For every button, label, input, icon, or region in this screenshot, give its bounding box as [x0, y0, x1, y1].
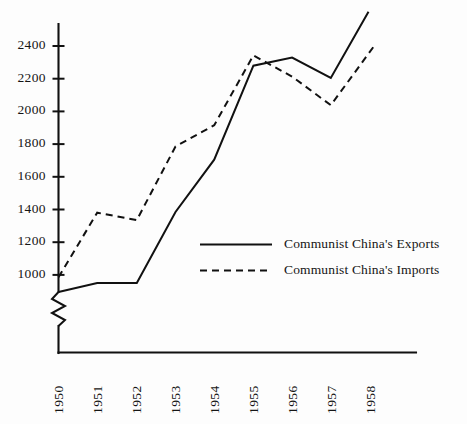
- x-tick-label: 1958: [363, 385, 378, 414]
- x-tick-label: 1956: [285, 385, 300, 414]
- y-tick-label: 2400: [17, 37, 46, 52]
- x-tick-label: 1952: [129, 385, 144, 414]
- chart-legend: Communist China's Exports Communist Chin…: [200, 236, 439, 277]
- x-tick-label: 1950: [51, 385, 66, 414]
- x-tick-label: 1955: [246, 385, 261, 414]
- y-tick-label: 2200: [17, 70, 46, 85]
- y-tick-label: 2000: [17, 102, 46, 117]
- axis-break-icon: [52, 292, 65, 326]
- y-tick-label: 1400: [17, 201, 46, 216]
- line-chart: 2400 2200 2000 1800 1600 1400 1200 1000 …: [0, 0, 467, 424]
- legend-label-exports: Communist China's Exports: [284, 236, 439, 251]
- y-tick-label: 1800: [17, 135, 46, 150]
- y-tick-label: 1600: [17, 168, 46, 183]
- x-tick-label: 1953: [168, 385, 183, 414]
- chart-page: 2400 2200 2000 1800 1600 1400 1200 1000 …: [0, 0, 467, 424]
- x-tick-labels: 1950 1951 1952 1953 1954 1955 1956 1957 …: [51, 385, 378, 414]
- x-tick-label: 1957: [324, 385, 339, 414]
- y-tick-labels: 2400 2200 2000 1800 1600 1400 1200 1000: [17, 37, 46, 281]
- x-tick-label: 1954: [207, 385, 222, 414]
- y-tick-label: 1200: [17, 233, 46, 248]
- x-tick-label: 1951: [90, 385, 105, 414]
- legend-label-imports: Communist China's Imports: [284, 262, 439, 277]
- y-tick-label: 1000: [17, 266, 46, 281]
